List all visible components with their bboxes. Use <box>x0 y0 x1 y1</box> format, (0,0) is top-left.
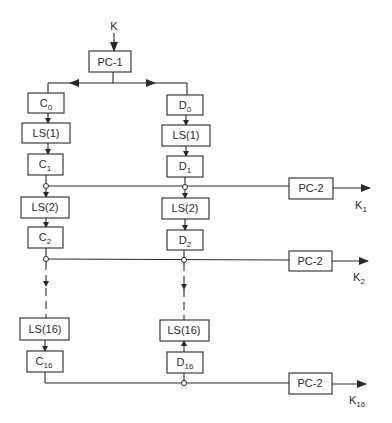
pc1-label: PC-1 <box>97 56 122 68</box>
d0-block: D0 <box>167 95 203 115</box>
pc2-block-1: PC-2 <box>289 178 333 199</box>
left-ls2-block: LS(2) <box>21 197 69 218</box>
right-junction-1 <box>183 185 188 190</box>
svg-text:LS(2): LS(2) <box>32 201 59 213</box>
c0-block: C0 <box>28 93 64 113</box>
svg-text:LS(16): LS(16) <box>167 324 200 336</box>
pc2-block-2: PC-2 <box>289 251 332 271</box>
c1-block: C1 <box>28 154 63 175</box>
key-input: K <box>110 20 118 51</box>
d2-block: D2 <box>167 230 203 250</box>
d1-block: D1 <box>167 156 203 177</box>
row2-bus <box>46 259 289 260</box>
k1-label: K1 <box>355 199 367 214</box>
right-dash-arrow <box>181 284 187 290</box>
right-ls1-block: LS(1) <box>162 125 210 146</box>
left-dash-arrow <box>43 281 49 287</box>
pc1-block: PC-1 <box>89 51 131 72</box>
k16-label: K16 <box>349 394 366 409</box>
svg-text:LS(16): LS(16) <box>28 323 61 335</box>
svg-text:PC-2: PC-2 <box>297 255 322 267</box>
c16-block: C16 <box>27 351 63 372</box>
svg-text:PC-2: PC-2 <box>297 377 322 389</box>
right-junction-2 <box>182 258 187 263</box>
svg-text:LS(2): LS(2) <box>172 202 199 214</box>
svg-text:LS(1): LS(1) <box>33 127 60 139</box>
svg-text:LS(1): LS(1) <box>173 129 200 141</box>
right-junction-16 <box>182 381 187 386</box>
pc2-block-16: PC-2 <box>289 373 332 394</box>
c2-block: C2 <box>28 227 63 248</box>
left-ls1-block: LS(1) <box>22 123 70 143</box>
key-label: K <box>110 20 118 32</box>
d16-block: D16 <box>167 352 203 373</box>
key-schedule-diagram: K PC-1 C0 LS(1) C1 LS(2) C2 LS(16) <box>0 0 392 423</box>
svg-text:PC-2: PC-2 <box>298 182 323 194</box>
right-ls2-block: LS(2) <box>162 198 209 219</box>
left-junction-1 <box>44 184 49 189</box>
left-junction-2 <box>44 257 49 262</box>
left-ls16-block: LS(16) <box>20 318 69 340</box>
k2-label: K2 <box>353 271 365 286</box>
right-ls16-block: LS(16) <box>160 320 209 341</box>
